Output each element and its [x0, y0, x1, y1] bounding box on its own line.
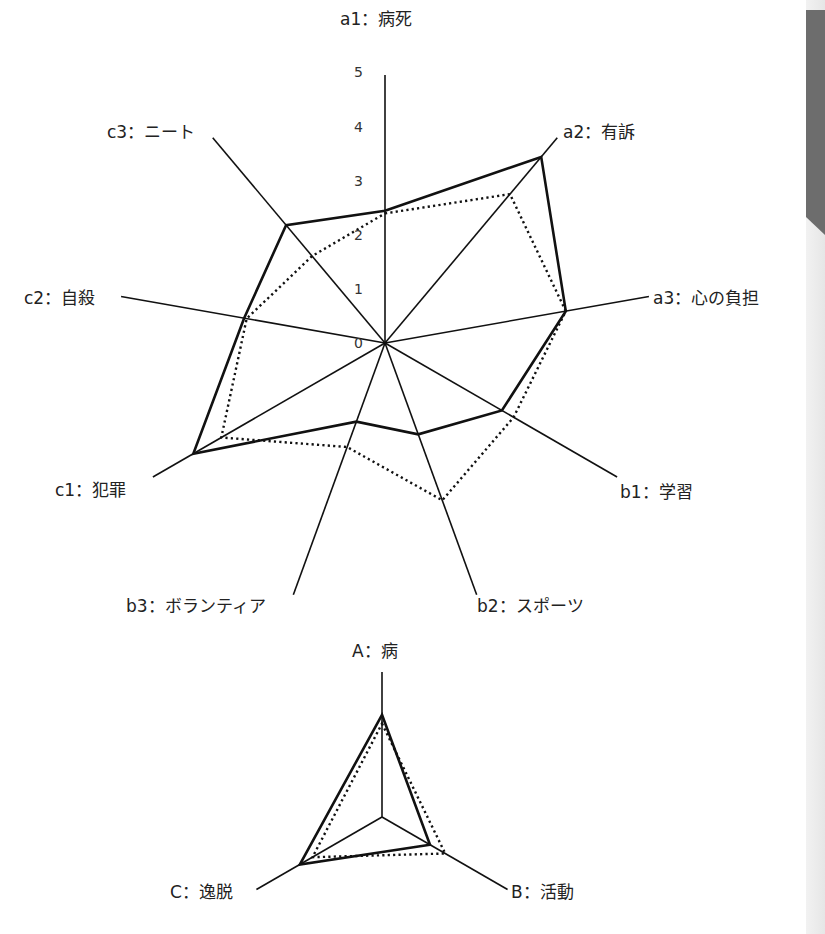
axis-label-B: B：活動	[511, 884, 574, 901]
axis-label-C: C：逸脱	[170, 884, 233, 901]
main-radar-axes	[121, 75, 649, 595]
summary-series-dotted	[313, 724, 446, 858]
summary-axis-line	[382, 817, 508, 890]
tick-4: 4	[354, 120, 363, 134]
main-axis-line	[121, 296, 385, 343]
summary-radar-series	[300, 715, 445, 865]
tick-3: 3	[354, 174, 363, 188]
page-tab	[806, 10, 825, 235]
axis-label-a1: a1：病死	[340, 11, 412, 28]
axis-label-A: A：病	[352, 643, 398, 660]
main-radar-series	[193, 157, 566, 500]
axis-label-c2: c2：自殺	[24, 290, 95, 307]
main-axis-line	[385, 343, 477, 595]
tick-0: 0	[354, 336, 363, 350]
axis-label-a3: a3：心の負担	[653, 290, 759, 307]
main-axis-line	[385, 138, 557, 343]
main-axis-line	[293, 343, 385, 595]
axis-label-c1: c1：犯罪	[55, 482, 126, 499]
axis-label-b3: b3：ボランティア	[126, 598, 266, 615]
summary-series-solid	[300, 715, 430, 865]
axis-label-b2: b2：スポーツ	[477, 598, 584, 615]
main-axis-line	[385, 296, 649, 343]
main-series-solid	[193, 157, 566, 454]
tick-1: 1	[354, 282, 363, 296]
summary-radar-axes	[256, 672, 507, 890]
main-axis-line	[153, 343, 385, 477]
axis-label-b1: b1：学習	[620, 484, 693, 501]
axis-label-a2: a2：有訴	[563, 124, 635, 141]
axis-label-c3: c3：ニート	[107, 124, 195, 141]
tick-2: 2	[354, 228, 363, 242]
tick-5: 5	[354, 65, 363, 79]
